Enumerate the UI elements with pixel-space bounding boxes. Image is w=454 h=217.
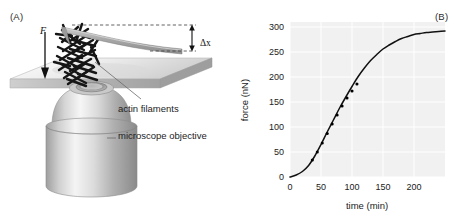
- data-point-marker: [316, 150, 319, 153]
- displacement-symbol-label: Δx: [200, 38, 211, 48]
- data-point-marker: [321, 141, 324, 144]
- force-symbol-label: F: [40, 25, 46, 36]
- y-tick-label: 50: [274, 147, 284, 157]
- data-point-marker: [336, 113, 339, 116]
- glass-slide-icon: [10, 58, 212, 88]
- force-vs-time-chart: 050100150200 050100150200250300 time (mi…: [218, 0, 454, 217]
- x-tick-label: 100: [344, 182, 359, 192]
- data-point-marker: [355, 82, 358, 85]
- y-axis-title: force (nN): [239, 79, 250, 121]
- panel-b-chart: (B) 050100150200 050100150200250300 time…: [218, 0, 454, 217]
- y-tick-label: 100: [269, 122, 284, 132]
- x-tick-label: 150: [375, 182, 390, 192]
- data-point-marker: [331, 122, 334, 125]
- y-tick-label: 150: [269, 97, 284, 107]
- panel-a-diagram: (A): [0, 0, 218, 217]
- x-tick-label: 200: [406, 182, 421, 192]
- data-point-marker: [326, 132, 329, 135]
- actin-filaments-label: actin filaments: [118, 103, 179, 115]
- y-axis-tick-labels: 050100150200250300: [269, 22, 284, 182]
- data-point-marker: [350, 89, 353, 92]
- microscope-objective-label: microscope objective: [118, 130, 213, 142]
- data-point-marker: [341, 104, 344, 107]
- data-point-marker: [345, 96, 348, 99]
- y-tick-label: 0: [279, 172, 284, 182]
- x-tick-label: 50: [316, 182, 326, 192]
- figure-container: (A): [0, 0, 454, 217]
- y-tick-label: 250: [269, 47, 284, 57]
- y-tick-label: 300: [269, 22, 284, 32]
- x-axis-tick-labels: 050100150200: [287, 182, 421, 192]
- y-tick-label: 200: [269, 72, 284, 82]
- x-axis-title: time (min): [346, 200, 388, 211]
- plot-background: [290, 22, 445, 177]
- x-tick-label: 0: [287, 182, 292, 192]
- double-headed-vertical-arrow-icon: [189, 25, 195, 52]
- data-point-marker: [311, 158, 314, 161]
- apparatus-diagram: [0, 0, 218, 217]
